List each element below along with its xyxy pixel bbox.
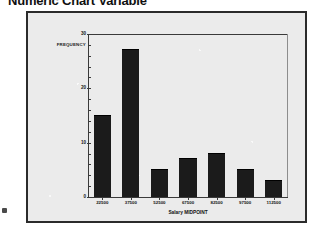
y-axis-tick bbox=[87, 143, 91, 144]
page-title: Numeric Chart Variable bbox=[8, 0, 147, 8]
plot-frame-left bbox=[88, 34, 89, 198]
y-axis-tick bbox=[88, 164, 91, 165]
x-axis-tick-label: 112500 bbox=[266, 201, 280, 205]
x-axis-tick-label: 67500 bbox=[182, 201, 194, 205]
x-axis-tick-label: 97500 bbox=[239, 201, 251, 205]
chart-panel: FREQUENCY 0102030 2250037500525006750082… bbox=[26, 11, 307, 223]
y-axis-tick bbox=[88, 154, 91, 155]
y-axis-tick bbox=[88, 45, 91, 46]
x-axis-tick-label: 37500 bbox=[125, 201, 137, 205]
x-axis-tick-label: 22500 bbox=[96, 201, 108, 205]
y-axis-tick-label: 20 bbox=[81, 86, 86, 91]
plot-frame-right bbox=[287, 34, 288, 198]
y-axis-tick bbox=[87, 197, 91, 198]
y-axis-tick bbox=[88, 110, 91, 111]
plot-area: FREQUENCY 0102030 2250037500525006750082… bbox=[88, 34, 288, 198]
y-axis-tick-label: 30 bbox=[81, 32, 86, 37]
y-axis-tick-label: 0 bbox=[83, 195, 86, 200]
y-axis-tick bbox=[87, 88, 91, 89]
page-corner-marker bbox=[2, 208, 7, 213]
bar[interactable] bbox=[151, 169, 168, 197]
x-axis-tick-label: 52500 bbox=[153, 201, 165, 205]
y-axis-tick bbox=[88, 186, 91, 187]
y-axis-tick-label: 10 bbox=[81, 140, 86, 145]
plot-frame-top bbox=[88, 34, 288, 35]
x-axis-tick-label: 82500 bbox=[210, 201, 222, 205]
bar[interactable] bbox=[179, 158, 196, 197]
y-axis-tick bbox=[88, 175, 91, 176]
bar[interactable] bbox=[122, 49, 139, 197]
bar[interactable] bbox=[94, 115, 111, 198]
y-axis-tick bbox=[88, 56, 91, 57]
bar[interactable] bbox=[208, 153, 225, 197]
y-axis-tick bbox=[88, 77, 91, 78]
y-axis-tick bbox=[88, 132, 91, 133]
y-axis-tick bbox=[88, 99, 91, 100]
y-axis-tick bbox=[88, 121, 91, 122]
y-axis-tick bbox=[88, 67, 91, 68]
bar[interactable] bbox=[237, 169, 254, 197]
y-axis-tick bbox=[87, 34, 91, 35]
y-axis-title: FREQUENCY bbox=[57, 42, 86, 47]
bar[interactable] bbox=[265, 180, 282, 197]
x-axis-title: Salary MIDPOINT bbox=[168, 210, 207, 215]
